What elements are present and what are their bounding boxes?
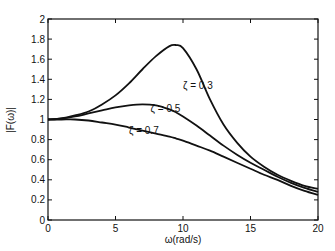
y-tick-label: 0.6 — [31, 154, 45, 165]
x-tick-label: 15 — [245, 223, 257, 234]
y-tick-label: 0.8 — [31, 134, 45, 145]
curve-0.5 — [48, 104, 318, 191]
x-tick-label: 10 — [177, 223, 189, 234]
curve-annotation: ζ = 0.7 — [129, 125, 159, 137]
x-tick-label: 5 — [113, 223, 119, 234]
y-tick-label: 1.8 — [31, 34, 45, 45]
curve-0.7 — [48, 119, 318, 194]
plot-curves — [48, 45, 318, 195]
y-tick-label: 0.4 — [31, 174, 45, 185]
chart: 0510152000.20.40.60.811.21.41.61.82 ζ = … — [0, 0, 335, 251]
y-axis-label: |F(ω)| — [5, 107, 16, 133]
x-tick-label: 0 — [45, 223, 51, 234]
y-tick-label: 0.2 — [31, 194, 45, 205]
x-tick-label: 20 — [312, 223, 324, 234]
y-tick-label: 2 — [39, 14, 45, 25]
y-tick-label: 1.2 — [31, 94, 45, 105]
y-tick-label: 1.6 — [31, 54, 45, 65]
plot-axes: 0510152000.20.40.60.811.21.41.61.82 — [31, 14, 324, 235]
y-tick-label: 1 — [39, 114, 45, 125]
curve-annotation: ζ = 0.3 — [183, 80, 213, 92]
curve-annotation: ζ = 0.5 — [151, 103, 181, 115]
y-tick-label: 0 — [39, 215, 45, 226]
x-axis-label: ω(rad/s) — [165, 234, 202, 245]
y-tick-label: 1.4 — [31, 74, 45, 85]
